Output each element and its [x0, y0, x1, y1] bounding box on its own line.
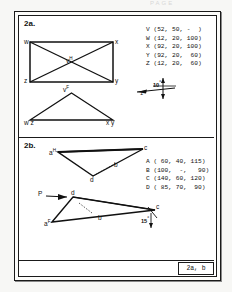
degree-symbol-icon-2b: °	[147, 216, 149, 221]
label-a-front-2b-superscript: F	[48, 219, 51, 224]
section-2b-figures	[0, 0, 232, 292]
label-a-top-2b-superscript: H	[53, 148, 56, 153]
label-d-front-2b: d	[71, 189, 75, 196]
label-d-top-2b: d	[90, 176, 94, 183]
coordinate-list-2b: A ( 60, 40, 115) B (100, -, 90) C (140, …	[146, 158, 209, 192]
label-c-top-2b: c	[144, 144, 147, 151]
label-b-front-2b: b	[98, 214, 102, 221]
label-p-arrow-2b: P	[38, 190, 42, 197]
title-block: 2a, b	[178, 262, 214, 275]
title-block-rule	[19, 260, 214, 261]
label-c-front-2b: c	[156, 203, 159, 210]
label-b-top-2b: b	[114, 161, 118, 168]
triangle-2b-top-view	[58, 149, 143, 176]
